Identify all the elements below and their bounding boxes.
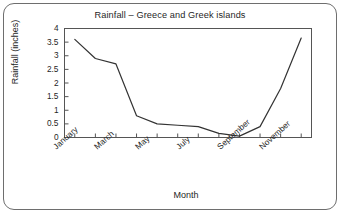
y-axis-tick-label: 4 — [35, 24, 59, 33]
y-axis-tick-label: 3.5 — [35, 38, 59, 47]
chart-figure: Rainfall – Greece and Greek islands Rain… — [0, 0, 340, 213]
plot-frame-rect — [65, 29, 312, 138]
y-axis-tick-label: 1 — [35, 106, 59, 115]
y-axis-tick-label: 1.5 — [35, 92, 59, 101]
x-axis-title: Month — [60, 190, 312, 200]
y-axis-tick-label: 0.5 — [35, 119, 59, 128]
y-axis-tick-label: 3 — [35, 51, 59, 60]
y-axis-tick-label: 2 — [35, 79, 59, 88]
y-axis-ticks — [65, 29, 69, 138]
plot-frame — [65, 29, 312, 138]
rainfall-line-series — [75, 38, 301, 136]
y-axis-tick-label: 2.5 — [35, 65, 59, 74]
